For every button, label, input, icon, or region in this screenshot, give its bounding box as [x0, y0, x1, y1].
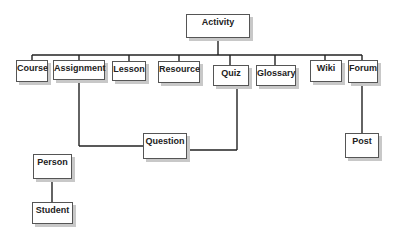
node-lesson: Lesson [112, 61, 146, 81]
node-wiki: Wiki [310, 60, 342, 82]
node-resource: Resource [158, 61, 200, 83]
node-assignment: Assignment [53, 60, 105, 80]
node-activity: Activity [186, 14, 250, 38]
node-forum: Forum [348, 60, 378, 83]
node-student: Student [32, 202, 73, 224]
diagram-canvas: Activity Course Assignment Lesson Resour… [0, 0, 397, 239]
node-course: Course [16, 60, 48, 82]
node-person: Person [33, 154, 72, 179]
node-question: Question [143, 133, 187, 159]
node-post: Post [345, 133, 379, 158]
node-quiz: Quiz [213, 65, 249, 86]
node-glossary: Glossary [256, 65, 296, 86]
